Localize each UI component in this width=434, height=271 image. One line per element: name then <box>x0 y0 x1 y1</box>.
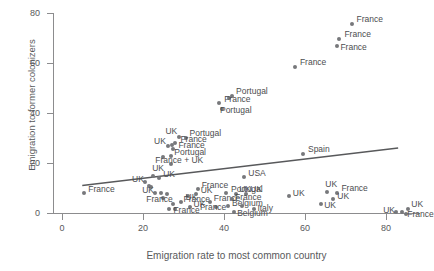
data-point-label: France <box>357 15 383 24</box>
data-point-label: UK <box>411 200 423 209</box>
data-point-label: France <box>146 195 172 204</box>
data-point <box>350 22 354 26</box>
data-point <box>82 191 86 195</box>
data-point-label: France <box>224 95 250 104</box>
data-point-label: Italy <box>257 204 273 213</box>
data-point <box>325 190 329 194</box>
data-point-label: UK <box>154 137 166 146</box>
data-point-label: France <box>200 203 226 212</box>
data-point <box>319 202 323 206</box>
data-point <box>335 44 339 48</box>
data-point-label: UK <box>165 127 177 136</box>
data-point-label: UK <box>293 189 305 198</box>
data-point-label: UK <box>163 170 175 179</box>
data-point <box>224 191 228 195</box>
data-point <box>287 194 291 198</box>
data-point-label: France <box>407 210 433 219</box>
data-point <box>226 204 230 208</box>
data-point <box>167 207 171 211</box>
data-point-label: France <box>173 206 199 215</box>
data-point <box>232 210 236 214</box>
data-point <box>242 175 246 179</box>
data-point <box>301 152 305 156</box>
data-point <box>151 174 155 178</box>
data-point <box>293 65 297 69</box>
data-point <box>166 144 170 148</box>
data-point <box>337 37 341 41</box>
data-point-label: USA <box>248 169 265 178</box>
data-point-label: France <box>344 30 370 39</box>
data-point <box>240 204 244 208</box>
data-point-label: UK <box>132 175 144 184</box>
data-point <box>157 176 161 180</box>
data-point-label: France <box>340 43 366 52</box>
data-point-label: France <box>300 58 326 67</box>
data-point-label: UK <box>325 180 337 189</box>
data-point-label: UK <box>152 164 164 173</box>
data-point-label: UK <box>324 201 336 210</box>
data-point-label: Portugal <box>220 106 252 115</box>
data-point-label: UK <box>337 192 349 201</box>
data-point-label: UK <box>383 206 395 215</box>
data-point-label: France <box>88 185 114 194</box>
data-point-label: Spain <box>308 145 330 154</box>
data-point <box>196 187 200 191</box>
